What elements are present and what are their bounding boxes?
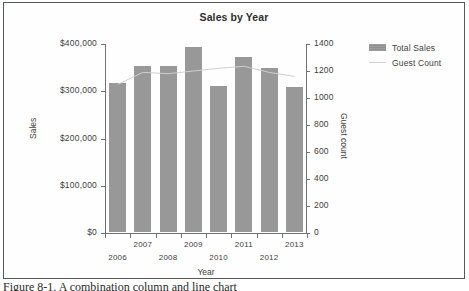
y2-tick-label: 800 bbox=[314, 119, 329, 129]
y2-tick-label: 200 bbox=[314, 200, 329, 210]
x-tick-label-2010: 2010 bbox=[209, 253, 228, 262]
x-tick-mark bbox=[282, 234, 283, 238]
guest-count-line bbox=[105, 44, 307, 234]
y2-tick-label: 400 bbox=[314, 173, 329, 183]
figure-caption: Figure 8-1. A combination column and lin… bbox=[3, 280, 237, 291]
x-tick-mark bbox=[130, 234, 131, 238]
x-tick-mark bbox=[105, 234, 106, 238]
x-tick-label-2007: 2007 bbox=[134, 240, 153, 249]
x-tick-label-2008: 2008 bbox=[159, 253, 178, 262]
x-tick-label-2011: 2011 bbox=[235, 240, 253, 249]
y2-tick-label: 1000 bbox=[314, 92, 334, 102]
figure-page: Sales by Year Sales Guest count Year Tot… bbox=[0, 0, 469, 291]
legend-item-total-sales[interactable]: Total Sales bbox=[369, 41, 464, 54]
chart-title: Sales by Year bbox=[24, 11, 444, 23]
x-axis-title: Year bbox=[197, 267, 214, 277]
x-tick-label-2006: 2006 bbox=[108, 253, 127, 262]
chart-legend: Total Sales Guest Count bbox=[369, 41, 464, 71]
y2-tick-label: 0 bbox=[314, 227, 319, 237]
x-tick-mark bbox=[307, 234, 308, 238]
y-tick-label: $300,000 bbox=[60, 85, 97, 95]
y-tick-label: $200,000 bbox=[60, 133, 97, 143]
legend-label-guest-count: Guest Count bbox=[392, 58, 441, 68]
y-tick-label: $100,000 bbox=[60, 180, 97, 190]
chart-frame: Sales by Year Sales Guest count Year Tot… bbox=[3, 2, 465, 279]
x-tick-label-2013: 2013 bbox=[285, 240, 304, 249]
y-axis-title: Sales bbox=[28, 118, 38, 139]
y-tick-label: $0 bbox=[87, 227, 97, 237]
y2-tick-label: 600 bbox=[314, 146, 329, 156]
x-tick-mark bbox=[257, 234, 258, 238]
x-tick-mark bbox=[206, 234, 207, 238]
chart-title-wrap: Sales by Year bbox=[24, 11, 444, 23]
legend-label-total-sales: Total Sales bbox=[392, 43, 435, 53]
y2-tick-label: 1400 bbox=[314, 38, 334, 48]
legend-item-guest-count[interactable]: Guest Count bbox=[369, 56, 464, 69]
plot-area: $0$100,000$200,000$300,000$400,000 02004… bbox=[105, 44, 307, 233]
x-tick-label-2009: 2009 bbox=[184, 240, 203, 249]
x-tick-mark bbox=[181, 234, 182, 238]
y-tick-label: $400,000 bbox=[60, 38, 97, 48]
y2-axis-ticks: 0200400600800100012001400 bbox=[314, 44, 374, 234]
guest-count-polyline bbox=[118, 66, 295, 84]
y2-tick-label: 1200 bbox=[314, 65, 334, 75]
x-tick-label-2012: 2012 bbox=[260, 253, 279, 262]
x-tick-mark bbox=[231, 234, 232, 238]
x-tick-mark bbox=[156, 234, 157, 238]
